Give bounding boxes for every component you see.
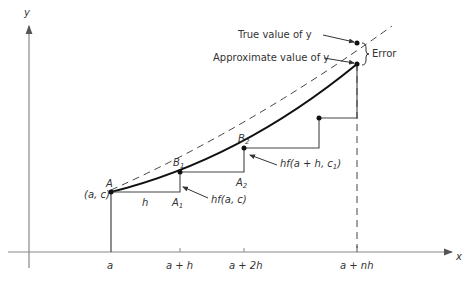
point-true-final <box>355 41 360 46</box>
pointer-hf1 <box>183 187 208 198</box>
label-a-c: (a, c) <box>84 189 110 200</box>
pointer-hf2 <box>250 155 277 165</box>
label-hf-a-c: hf(a, c) <box>211 194 247 205</box>
label-approx-value: Approximate value of y <box>213 52 329 63</box>
label-A1: A1 <box>171 197 183 210</box>
y-axis-label: y <box>23 7 31 18</box>
true-solution-curve <box>111 26 392 190</box>
point-B2 <box>242 146 247 151</box>
pointer-true-value <box>323 35 354 42</box>
label-h: h <box>142 197 148 208</box>
label-hf-a-plus-h: hf(a + h, c1) <box>280 158 341 171</box>
euler-method-diagram: y x a a + h a + 2h a + nh A (a, c) h A1 … <box>0 0 465 284</box>
tick-label-a-plus-nh: a + nh <box>340 260 374 271</box>
label-error: Error <box>372 48 397 59</box>
point-B3 <box>317 116 322 121</box>
tick-label-a: a <box>107 260 113 271</box>
point-B1 <box>178 170 183 175</box>
diagram-canvas: y x a a + h a + 2h a + nh A (a, c) h A1 … <box>0 0 465 284</box>
tick-label-a-plus-h: a + h <box>166 260 193 271</box>
label-B2: B2 <box>238 133 250 146</box>
label-A2: A2 <box>235 177 248 190</box>
label-A: A <box>105 178 113 189</box>
tick-label-a-plus-2h: a + 2h <box>229 260 263 271</box>
label-true-value: True value of y <box>237 29 312 40</box>
point-approx-final <box>355 62 360 67</box>
x-axis-label: x <box>455 251 462 262</box>
label-B1: B1 <box>173 157 184 170</box>
